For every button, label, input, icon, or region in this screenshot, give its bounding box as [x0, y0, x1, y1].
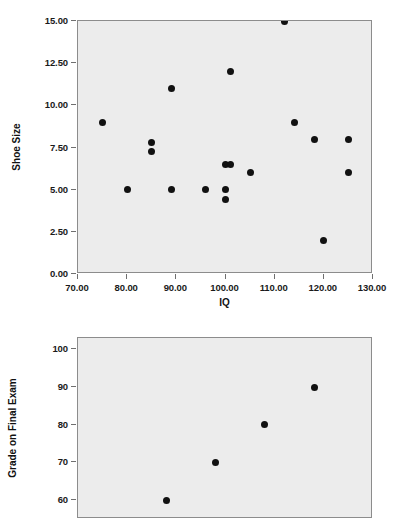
- data-point: [247, 169, 254, 176]
- data-point: [163, 497, 170, 504]
- data-point: [227, 161, 234, 168]
- scatterplot-grade-on-final-exam: 60708090100 Grade on Final Exam: [0, 320, 394, 518]
- scatterplot-shoe-size-vs-iq: 0.002.505.007.5010.0012.5015.0070.0080.0…: [0, 0, 394, 320]
- plot-frame-grade: [77, 337, 372, 518]
- data-point: [148, 148, 155, 155]
- x-tick-label: 110.00: [260, 282, 288, 293]
- data-point: [291, 119, 298, 126]
- x-tick-label: 130.00: [358, 282, 386, 293]
- data-point: [168, 85, 175, 92]
- y-tick-label: 7.50: [50, 141, 68, 152]
- x-tick-label: 70.00: [65, 282, 88, 293]
- data-point: [227, 68, 234, 75]
- x-tick-mark: [323, 274, 324, 279]
- x-tick-mark: [77, 274, 78, 279]
- y-tick-mark: [71, 386, 76, 387]
- x-tick-mark: [274, 274, 275, 279]
- data-point: [99, 119, 106, 126]
- y-tick-label: 80: [58, 418, 68, 429]
- data-point: [261, 421, 268, 428]
- x-tick-label: 100.00: [210, 282, 238, 293]
- y-tick-label: 60: [58, 494, 68, 505]
- data-point: [222, 196, 229, 203]
- x-tick-label: 120.00: [309, 282, 337, 293]
- x-tick-mark: [225, 274, 226, 279]
- x-tick-mark: [372, 274, 373, 279]
- data-point: [148, 139, 155, 146]
- data-point: [345, 136, 352, 143]
- y-tick-mark: [71, 189, 76, 190]
- y-tick-label: 0.00: [50, 268, 68, 279]
- y-axis-title-grade: Grade on Final Exam: [7, 378, 18, 477]
- data-point: [345, 169, 352, 176]
- y-axis-title-shoe-size: Shoe Size: [11, 123, 22, 170]
- y-tick-mark: [71, 147, 76, 148]
- x-axis-title-iq: IQ: [219, 297, 230, 308]
- x-tick-label: 80.00: [115, 282, 138, 293]
- y-tick-mark: [71, 499, 76, 500]
- plot-area-grade: [78, 338, 371, 517]
- y-tick-mark: [71, 348, 76, 349]
- y-tick-mark: [71, 104, 76, 105]
- data-point: [202, 186, 209, 193]
- data-point: [168, 186, 175, 193]
- y-tick-mark: [71, 231, 76, 232]
- x-tick-mark: [126, 274, 127, 279]
- y-tick-mark: [71, 424, 76, 425]
- y-tick-label: 10.00: [45, 99, 68, 110]
- y-tick-mark: [71, 62, 76, 63]
- data-point: [311, 384, 318, 391]
- data-point: [124, 186, 131, 193]
- data-point: [281, 21, 288, 25]
- data-point: [212, 459, 219, 466]
- x-tick-mark: [175, 274, 176, 279]
- y-tick-label: 100: [52, 343, 68, 354]
- data-point: [222, 186, 229, 193]
- x-tick-label: 90.00: [164, 282, 187, 293]
- y-tick-label: 70: [58, 456, 68, 467]
- y-tick-mark: [71, 20, 76, 21]
- data-point: [320, 237, 327, 244]
- plot-area-shoe-size: [78, 21, 371, 272]
- y-tick-label: 5.00: [50, 183, 68, 194]
- y-tick-label: 2.50: [50, 225, 68, 236]
- y-tick-mark: [71, 461, 76, 462]
- plot-frame-shoe-size: [77, 20, 372, 273]
- y-tick-label: 90: [58, 381, 68, 392]
- y-tick-label: 12.50: [45, 57, 68, 68]
- y-tick-label: 15.00: [45, 15, 68, 26]
- data-point: [311, 136, 318, 143]
- y-tick-mark: [71, 273, 76, 274]
